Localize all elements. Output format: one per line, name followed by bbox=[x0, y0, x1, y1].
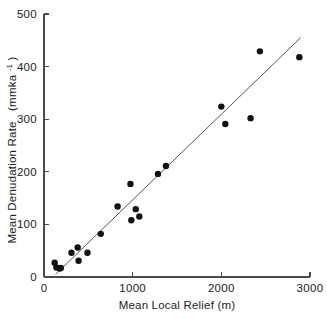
plot-canvas: 0100200300400500 0100020003000 Mean Loca… bbox=[0, 0, 327, 319]
data-point bbox=[75, 257, 81, 263]
y-tick-label-500: 500 bbox=[17, 8, 37, 20]
data-point bbox=[127, 181, 133, 187]
data-point bbox=[296, 54, 302, 60]
x-tick-label-1000: 1000 bbox=[119, 282, 146, 294]
y-tick-marks bbox=[44, 14, 49, 277]
y-tick-label-400: 400 bbox=[17, 61, 37, 73]
data-point bbox=[257, 48, 263, 54]
x-tick-labels: 0100020003000 bbox=[41, 282, 324, 294]
y-axis-title-units-close: ) bbox=[6, 56, 18, 60]
y-tick-labels: 0100200300400500 bbox=[17, 8, 37, 283]
y-axis-title-units-open: (mmka bbox=[6, 74, 18, 111]
y-tick-label-200: 200 bbox=[17, 166, 37, 178]
data-point bbox=[136, 213, 142, 219]
data-point bbox=[84, 250, 90, 256]
x-tick-label-3000: 3000 bbox=[297, 282, 324, 294]
scatter-plot-figure: 0100200300400500 0100020003000 Mean Loca… bbox=[0, 0, 327, 319]
y-tick-label-300: 300 bbox=[17, 113, 37, 125]
x-tick-label-0: 0 bbox=[41, 282, 48, 294]
y-axis-title-units-exponent: -1 bbox=[5, 63, 14, 71]
x-axis-title: Mean Local Relief (m) bbox=[119, 299, 236, 311]
regression-line-group bbox=[56, 38, 301, 275]
data-point bbox=[98, 231, 104, 237]
y-axis-title: Mean Denudation Rate (mmka -1 ) bbox=[2, 56, 18, 243]
y-tick-label-100: 100 bbox=[17, 218, 37, 230]
regression-line bbox=[56, 38, 301, 275]
y-tick-label-0: 0 bbox=[30, 271, 37, 283]
data-point bbox=[218, 103, 224, 109]
x-axis-title-text: Mean Local Relief (m) bbox=[119, 299, 236, 311]
data-point bbox=[163, 163, 169, 169]
data-point bbox=[68, 250, 74, 256]
data-point bbox=[247, 115, 253, 121]
x-tick-marks bbox=[133, 272, 310, 277]
data-point bbox=[58, 265, 64, 271]
data-point bbox=[155, 171, 161, 177]
data-point bbox=[133, 206, 139, 212]
y-axis-title-main: Mean Denudation Rate bbox=[6, 121, 18, 243]
data-point bbox=[222, 121, 228, 127]
data-point bbox=[114, 203, 120, 209]
axes-group bbox=[44, 14, 310, 277]
x-tick-label-2000: 2000 bbox=[208, 282, 235, 294]
data-point bbox=[128, 217, 134, 223]
y-axis-title-text: Mean Denudation Rate (mmka -1 ) bbox=[2, 56, 18, 243]
data-points-group bbox=[51, 48, 302, 272]
data-point bbox=[74, 244, 80, 250]
